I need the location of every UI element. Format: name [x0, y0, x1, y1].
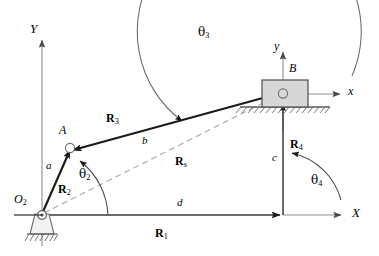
diagram-vector-graphics: [0, 0, 379, 256]
point-o2-letter: O: [14, 192, 23, 206]
y-axis-label: Y: [30, 22, 37, 35]
vector-rs-letter: R: [175, 154, 184, 168]
vector-rs-dashed-line: [44, 95, 279, 213]
angle-theta2-label: θ2: [79, 168, 90, 182]
angle-theta4-label: θ4: [311, 174, 322, 188]
angle-theta3-arc: [137, 0, 361, 121]
joint-b-pin: [278, 89, 287, 98]
vector-rs-label: Rs: [175, 155, 187, 169]
figure-canvas: Y X y x O2 A B R1 R2 R3 R4 Rs a b c d θ2…: [0, 0, 379, 256]
local-y-axis-label: y: [274, 40, 279, 52]
angle-theta3-subscript: 3: [205, 31, 209, 40]
local-x-axis-label: x: [348, 85, 353, 97]
length-c-label: c: [272, 152, 277, 163]
angle-theta2-subscript: 2: [86, 173, 90, 182]
point-a-label: A: [59, 124, 66, 136]
angle-theta4-subscript: 4: [318, 179, 322, 188]
point-o2-label: O2: [14, 193, 27, 207]
vector-r3-label: R3: [106, 112, 119, 126]
vector-r2-letter: R: [58, 182, 67, 196]
length-b-label: b: [142, 135, 148, 146]
vector-r1-subscript: 1: [164, 232, 168, 241]
vector-r3-letter: R: [106, 111, 115, 125]
vector-r2-label: R2: [58, 183, 71, 197]
vector-r1-label: R1: [155, 227, 168, 241]
joint-a-pin: [65, 143, 74, 152]
length-d-label: d: [177, 197, 183, 208]
slider-block: [262, 80, 308, 107]
point-b-label: B: [289, 62, 296, 74]
vector-rs-subscript: s: [184, 160, 187, 169]
vector-r4-letter: R: [290, 137, 299, 151]
vector-r2-subscript: 2: [67, 188, 71, 197]
vector-r3-line: [73, 93, 281, 150]
x-axis-label: X: [352, 206, 360, 219]
vector-r3-subscript: 3: [115, 117, 119, 126]
length-a-label: a: [46, 160, 52, 171]
vector-r1-letter: R: [155, 226, 164, 240]
vector-r4-subscript: 4: [299, 143, 303, 152]
point-o2-subscript: 2: [23, 198, 27, 207]
angle-theta3-label: θ3: [198, 26, 209, 40]
vector-r4-label: R4: [290, 138, 303, 152]
